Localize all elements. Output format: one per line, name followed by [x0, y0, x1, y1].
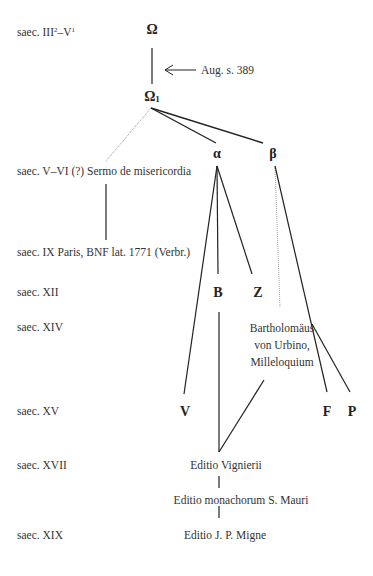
node-omega1-symbol: Ω	[144, 89, 155, 104]
era-label-xvii: saec. XVII	[17, 459, 67, 472]
node-Z: Z	[253, 285, 262, 301]
node-alpha: α	[213, 146, 221, 162]
node-omega: Ω	[146, 22, 157, 38]
edge-beta-bartholomaeus	[275, 166, 280, 308]
era-text: saec. III	[17, 26, 54, 38]
era-label-xix: saec. XIX	[17, 529, 63, 542]
source-aug-s-389: Aug. s. 389	[201, 64, 254, 77]
edge-beta-P	[312, 324, 350, 392]
edge-bartholomaeus-vignierii	[219, 380, 264, 452]
bartholomaeus-line-1: Bartholomäus	[250, 320, 315, 337]
node-bartholomaeus: Bartholomäus von Urbino, Milleloquium	[250, 320, 315, 371]
node-omega1: Ω1	[144, 89, 160, 107]
edge-alpha-Z	[217, 166, 252, 274]
bartholomaeus-line-2: von Urbino,	[250, 337, 315, 354]
node-editio-maurini: Editio monachorum S. Mauri	[174, 494, 309, 507]
era-label-v-vi: saec. V–VI (?) Sermo de misericordia	[17, 165, 191, 178]
era-label-xii: saec. XII	[17, 286, 59, 299]
edge-alpha-V	[184, 166, 217, 394]
edge-alpha-B	[217, 166, 218, 274]
node-beta: β	[269, 146, 276, 162]
node-editio-vignierii: Editio Vignierii	[190, 459, 262, 472]
node-F: F	[323, 404, 332, 420]
bartholomaeus-line-3: Milleloquium	[250, 354, 315, 371]
node-V: V	[180, 404, 190, 420]
era-sup: 1	[72, 26, 76, 34]
era-label-ix: saec. IX Paris, BNF lat. 1771 (Verbr.)	[17, 246, 190, 259]
era-label-xiv: saec. XIV	[17, 321, 63, 334]
node-P: P	[348, 404, 357, 420]
era-label-xv: saec. XV	[17, 405, 59, 418]
era-text: –V	[58, 26, 72, 38]
node-editio-migne: Editio J. P. Migne	[184, 529, 266, 542]
node-omega1-subscript: 1	[155, 94, 160, 104]
node-B: B	[213, 285, 222, 301]
era-label-iii-v: saec. III2–V1	[17, 24, 75, 39]
edge-omega1-sermo	[106, 108, 151, 161]
stemma-diagram: saec. III2–V1 saec. V–VI (?) Sermo de mi…	[0, 0, 373, 576]
